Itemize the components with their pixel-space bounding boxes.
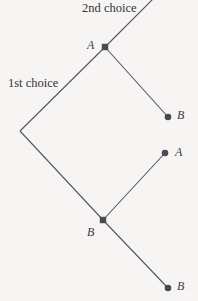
node-label-leaf-a-b: B [177, 109, 184, 121]
tree-graphics [0, 0, 198, 301]
edge-root-to-b [20, 131, 103, 220]
edge-b-to-leaf-b [103, 220, 168, 288]
node-marker-leaf-a-b [165, 114, 172, 121]
node-marker-branch-b [100, 217, 106, 223]
node-marker-branch-a [102, 44, 108, 50]
node-label-branch-a: A [87, 39, 94, 51]
node-label-branch-b: B [87, 226, 94, 238]
probability-tree-diagram: 1st choice 2nd choice A B B A B [0, 0, 198, 301]
stage-label-first-choice: 1st choice [8, 77, 58, 90]
node-marker-leaf-b-b [165, 285, 172, 292]
node-label-leaf-b-b: B [177, 280, 184, 292]
node-marker-leaf-b-a [162, 150, 169, 157]
stage-label-second-choice: 2nd choice [82, 2, 137, 15]
edge-a-to-leaf-b [105, 47, 168, 117]
edge-b-to-leaf-a [103, 153, 165, 220]
node-label-leaf-b-a: A [175, 146, 182, 158]
